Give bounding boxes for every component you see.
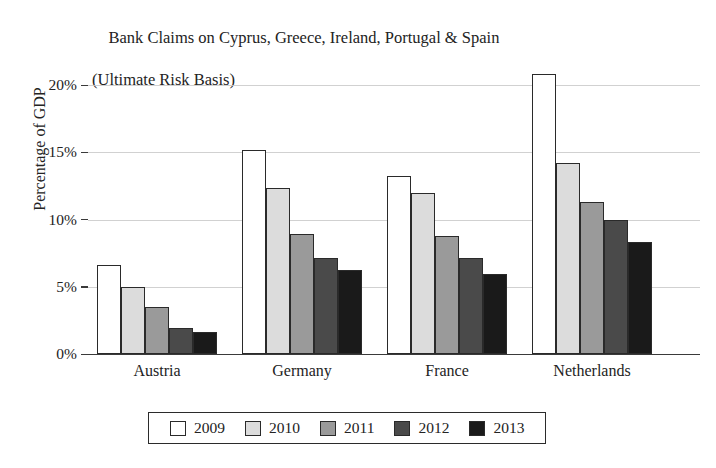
bar (556, 163, 580, 354)
y-axis-tick-mark (81, 152, 88, 153)
bar (387, 176, 411, 354)
bar (290, 234, 314, 354)
plot-area: 0%5%10%15%20% AustriaGermanyFranceNether… (88, 60, 700, 354)
x-axis-category-label: Germany (242, 362, 362, 380)
bar (97, 265, 121, 354)
bar (580, 202, 604, 354)
legend-label: 2011 (344, 419, 374, 437)
x-axis-category-label: Austria (97, 362, 217, 380)
bar (193, 332, 217, 354)
x-axis-category-label: Netherlands (532, 362, 652, 380)
legend-swatch-icon (469, 421, 485, 436)
legend-item: 2013 (469, 419, 524, 437)
y-axis-tick-mark (81, 219, 88, 220)
bar (242, 150, 266, 354)
y-axis-tick-label: 20% (49, 76, 77, 94)
legend-swatch-icon (394, 421, 410, 436)
bar (483, 274, 507, 354)
chart-legend: 20092010201120122013 (148, 412, 546, 444)
legend-swatch-icon (170, 421, 186, 436)
y-axis-tick-label: 0% (56, 345, 77, 363)
y-axis-tick-label: 15% (49, 143, 77, 161)
legend-swatch-icon (320, 421, 336, 436)
bar (145, 307, 169, 354)
y-axis-tick-label: 10% (49, 211, 77, 229)
bar (121, 287, 145, 354)
legend-item: 2010 (245, 419, 300, 437)
bar (314, 258, 338, 354)
y-axis-tick-mark (81, 354, 88, 355)
legend-item: 2012 (394, 419, 449, 437)
y-axis-tick-label: 5% (56, 278, 77, 296)
chart-title-line-1: Bank Claims on Cyprus, Greece, Ireland, … (109, 28, 500, 47)
bar (628, 242, 652, 354)
legend-label: 2009 (194, 419, 225, 437)
x-axis-line (88, 354, 700, 355)
bar (532, 74, 556, 354)
y-axis-tick-mark (81, 286, 88, 287)
bar (266, 188, 290, 354)
x-axis-category-label: France (387, 362, 507, 380)
bar (435, 236, 459, 354)
bar-group (387, 60, 507, 354)
legend-label: 2012 (418, 419, 449, 437)
bar (459, 258, 483, 354)
y-axis-tick-mark (81, 85, 88, 86)
legend-label: 2010 (269, 419, 300, 437)
legend-swatch-icon (245, 421, 261, 436)
y-axis-label: Percentage of GDP (31, 49, 49, 249)
legend-label: 2013 (493, 419, 524, 437)
legend-item: 2011 (320, 419, 374, 437)
bar-group (242, 60, 362, 354)
bar (411, 193, 435, 354)
legend-item: 2009 (170, 419, 225, 437)
bar-chart: Bank Claims on Cyprus, Greece, Ireland, … (0, 0, 716, 468)
bar (604, 220, 628, 355)
bar (338, 270, 362, 354)
bar-group (532, 60, 652, 354)
bar-group (97, 60, 217, 354)
bar (169, 328, 193, 354)
